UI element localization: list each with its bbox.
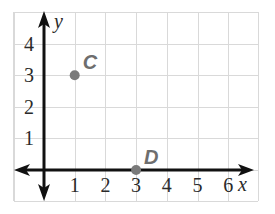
x-axis-label: x (237, 173, 247, 195)
y-tick-label: 1 (24, 127, 34, 149)
x-tick-label: 2 (100, 174, 110, 196)
point-marker (131, 165, 141, 175)
y-axis-label: y (52, 10, 63, 33)
point-marker (70, 70, 80, 80)
x-tick-label: 5 (193, 174, 203, 196)
y-tick-label: 2 (24, 96, 34, 118)
x-tick-label: 1 (70, 174, 80, 196)
coordinate-plane: 1234561234 x y CD (0, 0, 275, 214)
point-label: D (144, 146, 158, 168)
x-tick-label: 6 (223, 174, 233, 196)
x-tick-label: 4 (162, 174, 172, 196)
point-label: C (83, 51, 98, 73)
y-tick-label: 3 (24, 64, 34, 86)
data-points: CD (70, 51, 159, 175)
x-tick-label: 3 (131, 174, 141, 196)
y-tick-label: 4 (24, 33, 34, 55)
